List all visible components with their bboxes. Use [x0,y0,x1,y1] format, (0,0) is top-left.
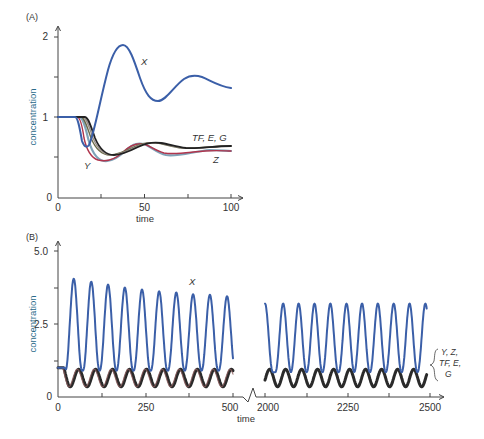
panel-b-y-axis [54,241,61,397]
panel-a-x-axis [58,194,243,201]
panel-b-xtick-500: 500 [222,402,239,413]
panel-b-curves [58,279,427,387]
panel-a-label: (A) [26,12,38,22]
panel-b-xtick-0: 0 [55,402,61,413]
brace-icon [430,349,438,381]
panel-a-label-y: Y [84,160,91,171]
panel-b-label: (B) [26,232,38,242]
panel-a-xtick-0: 0 [55,202,61,213]
figure: (A) 2 1 0 0 50 100 time concentration [0,0,484,439]
panel-b-x-axis-title: time [237,413,255,424]
panel-b-label-group-1: Y, Z, [441,347,458,357]
panel-a-xtick-50: 50 [139,202,151,213]
panel-a: (A) 2 1 0 0 50 100 time concentration [26,12,243,224]
panel-a-x-axis-title: time [136,213,154,224]
panel-b-xtick-2000: 2000 [257,402,280,413]
panel-a-ytick-0: 0 [46,192,52,203]
panel-a-y-axis [54,26,61,198]
panel-a-label-x: X [140,56,148,67]
panel-a-label-tfeg: TF, E, G [192,132,227,143]
panel-a-label-z: Z [212,154,220,165]
axis-break-icon [243,388,444,402]
panel-b-label-group-2: TF, E, [439,358,461,368]
panel-b-xtick-2500: 2500 [419,402,442,413]
curve-x-seg1 [58,279,233,371]
panel-b-ytick-0: 0 [46,391,52,402]
panel-b-label-x: X [188,276,196,287]
panel-a-xtick-100: 100 [223,202,240,213]
curve-x-seg2 [265,304,427,373]
panel-b: (B) 5.0 2.5 0 0 250 500 [26,232,461,424]
panel-b-label-group-3: G [445,369,452,379]
panel-b-xtick-2250: 2250 [337,402,360,413]
panel-b-ytick-5: 5.0 [34,246,48,257]
panel-a-ytick-1: 1 [42,112,48,123]
panel-b-x-axis [58,388,444,402]
panel-a-ytick-2: 2 [42,31,48,42]
panel-a-y-axis-title: concentration [27,88,38,145]
panel-b-xtick-250: 250 [138,402,155,413]
panel-b-y-axis-title: concentration [27,295,38,352]
